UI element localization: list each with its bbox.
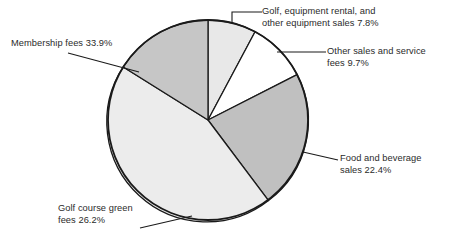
leader-line-golf-equipment-rental	[232, 12, 262, 23]
pie-label-food-and-beverage: Food and beverage sales 22.4%	[340, 153, 422, 176]
pie-label-other-sales-service-fees: Other sales and service fees 9.7%	[327, 46, 426, 69]
leader-line-food-and-beverage	[303, 152, 338, 160]
pie-label-membership-fees: Membership fees 33.9%	[11, 38, 112, 50]
leader-line-golf-course-green-fees	[140, 216, 192, 228]
pie-label-golf-course-green-fees: Golf course green fees 26.2%	[58, 203, 133, 226]
pie-label-golf-equipment-rental: Golf, equipment rental, and other equipm…	[262, 6, 379, 29]
